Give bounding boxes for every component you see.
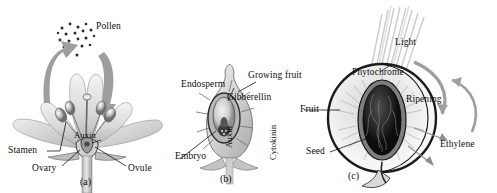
label-growing-fruit: Growing fruit (248, 71, 302, 81)
ovary-receptacle (76, 138, 98, 159)
label-stamen: Stamen (8, 146, 37, 156)
label-light: Light (395, 38, 416, 48)
label-ripening: Ripening (406, 95, 442, 105)
ripening-arrowhead (437, 104, 448, 114)
plant-hormone-figure: Pollen Stamen Auxin Ovary Ovule (a) (0, 0, 497, 193)
label-fruit: Fruit (300, 105, 319, 115)
label-ovule: Ovule (128, 164, 152, 174)
panel-c-ripening-fruit: Light Phytochrome Ripening Fruit Seed Et… (296, 0, 497, 193)
panel-marker-a: (a) (80, 176, 91, 187)
label-endosperm: Endosperm (181, 80, 225, 90)
label-pollen: Pollen (96, 22, 121, 32)
label-auxin-vertical: Auxin (224, 126, 234, 148)
ovule-body (84, 141, 89, 146)
label-seed: Seed (306, 147, 325, 157)
label-cytokinin-vertical: Cytokinin (268, 125, 278, 160)
panel-a-flower: Pollen Stamen Auxin Ovary Ovule (a) (0, 0, 175, 193)
label-ovary: Ovary (32, 164, 56, 174)
panel-marker-c: (c) (348, 170, 359, 181)
label-phytochrome: Phytochrome (352, 68, 404, 78)
panel-marker-b: (b) (220, 173, 232, 184)
label-embryo: Embryo (175, 152, 206, 162)
panel-c-artwork (296, 0, 497, 193)
label-auxin: Auxin (74, 131, 96, 140)
label-gibberellin: Gibberellin (227, 93, 271, 103)
ethylene-feedback-arrow (452, 80, 476, 132)
panel-b-growing-fruit: Growing fruit Endosperm Gibberellin Auxi… (172, 0, 302, 193)
label-ethylene: Ethylene (440, 140, 475, 150)
